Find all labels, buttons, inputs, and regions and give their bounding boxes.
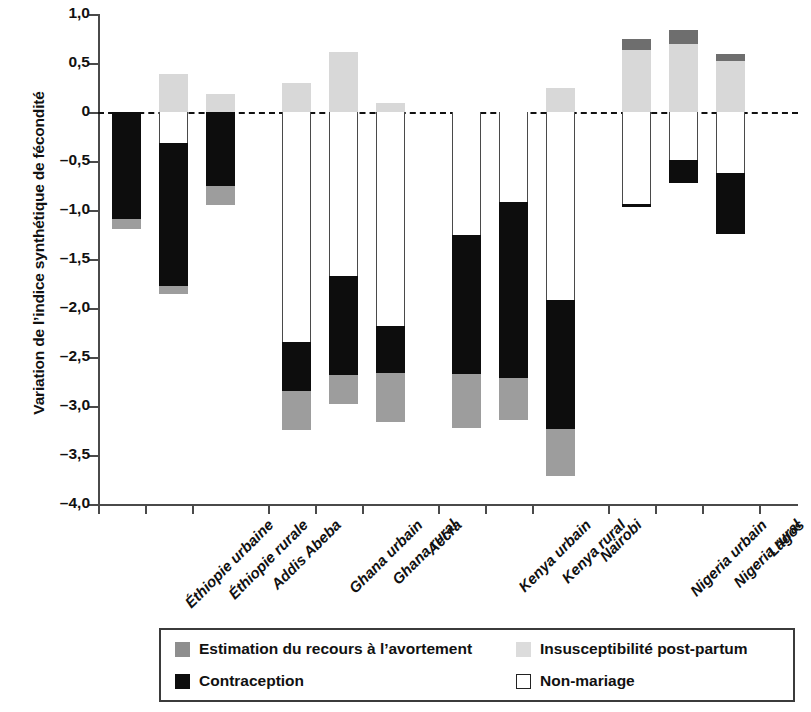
y-tick (89, 112, 98, 114)
segment-non-mariage (376, 112, 405, 326)
segment-abortion (669, 30, 698, 45)
segment-abortion (159, 286, 188, 294)
bar-addis-abeba[interactable] (206, 14, 235, 506)
y-tick (89, 161, 98, 163)
y-tick (89, 406, 98, 408)
segment-contraception (499, 202, 528, 377)
bar--thiopie-rurale[interactable] (159, 14, 188, 506)
y-tick (89, 14, 98, 16)
x-tick (759, 504, 761, 514)
x-tick (438, 504, 440, 514)
y-tick-label: –4,0 (24, 494, 90, 512)
x-tick (268, 504, 270, 514)
bar-ghana-rural[interactable] (329, 14, 358, 506)
y-tick-label: 1,0 (24, 4, 90, 22)
legend-label: Estimation du recours à l’avortement (199, 640, 472, 658)
x-tick (608, 504, 610, 514)
bar-kenya-urbain[interactable] (452, 14, 481, 506)
plot-area: 1,00,50–0,5–1,0–1,5–2,0–2,5–3,0–3,5–4,0 (98, 14, 798, 506)
x-tick (655, 504, 657, 514)
x-tick (192, 504, 194, 514)
legend-item-gray[interactable]: Estimation du recours à l’avortement (175, 640, 472, 658)
segment-abortion (622, 39, 651, 51)
legend-label: Contraception (199, 672, 304, 690)
segment-contraception (376, 326, 405, 373)
x-tick (532, 504, 534, 514)
y-tick (89, 504, 98, 506)
segment-contraception (206, 112, 235, 186)
bar-accra[interactable] (376, 14, 405, 506)
segment-postpartum (669, 44, 698, 112)
legend-item-black[interactable]: Contraception (175, 672, 304, 690)
bar-ghana-urbain[interactable] (282, 14, 311, 506)
chart-root: Variation de l’indice synthétique de féc… (0, 0, 811, 712)
bar-kenya-rural[interactable] (499, 14, 528, 506)
segment-contraception (716, 173, 745, 234)
segment-contraception (546, 300, 575, 428)
segment-postpartum (546, 88, 575, 113)
x-tick (362, 504, 364, 514)
segment-abortion (499, 378, 528, 420)
y-tick (89, 308, 98, 310)
bar-nairobi[interactable] (546, 14, 575, 506)
segment-contraception (452, 235, 481, 374)
y-tick (89, 259, 98, 261)
segment-non-mariage (546, 112, 575, 300)
y-tick-label: –2,0 (24, 298, 90, 316)
y-tick (89, 455, 98, 457)
y-tick-label: –1,0 (24, 200, 90, 218)
x-tick (315, 504, 317, 514)
segment-contraception (159, 143, 188, 286)
x-tick (98, 504, 100, 514)
y-axis-line (98, 14, 100, 506)
legend-swatch-gray-icon (175, 642, 190, 657)
segment-postpartum (282, 83, 311, 112)
y-tick (89, 63, 98, 65)
y-tick (89, 357, 98, 359)
segment-abortion (112, 219, 141, 229)
y-tick-label: –3,0 (24, 396, 90, 414)
legend-label: Insusceptibilité post-partum (540, 640, 748, 658)
segment-non-mariage (622, 112, 651, 204)
legend: Estimation du recours à l’avortementInsu… (159, 628, 795, 702)
segment-contraception (669, 160, 698, 183)
x-tick (145, 504, 147, 514)
segment-postpartum (376, 103, 405, 112)
segment-contraception (282, 342, 311, 391)
segment-non-mariage (329, 112, 358, 276)
segment-non-mariage (282, 112, 311, 342)
segment-contraception (622, 204, 651, 207)
segment-postpartum (716, 61, 745, 112)
segment-abortion (329, 375, 358, 404)
segment-abortion (282, 391, 311, 430)
legend-swatch-black-icon (175, 674, 190, 689)
bar-nigeria-rural[interactable] (669, 14, 698, 506)
y-tick-label: –1,5 (24, 249, 90, 267)
segment-postpartum (329, 52, 358, 112)
legend-item-light[interactable]: Insusceptibilité post-partum (516, 640, 748, 658)
legend-swatch-white-icon (516, 674, 531, 689)
segment-non-mariage (716, 112, 745, 173)
segment-abortion (206, 186, 235, 205)
segment-contraception (329, 276, 358, 375)
x-tick (485, 504, 487, 514)
segment-abortion (716, 54, 745, 61)
bar--thiopie-urbaine[interactable] (112, 14, 141, 506)
segment-non-mariage (452, 112, 481, 235)
legend-label: Non-mariage (540, 672, 635, 690)
y-tick-label: 0,5 (24, 53, 90, 71)
y-tick-label: 0 (24, 102, 90, 120)
y-tick (89, 210, 98, 212)
segment-abortion (452, 374, 481, 428)
segment-contraception (112, 112, 141, 219)
y-tick-label: –3,5 (24, 445, 90, 463)
bar-lagos[interactable] (716, 14, 745, 506)
segment-non-mariage (499, 112, 528, 202)
legend-item-white[interactable]: Non-mariage (516, 672, 635, 690)
x-tick (702, 504, 704, 514)
y-tick-label: –2,5 (24, 347, 90, 365)
segment-abortion (546, 429, 575, 476)
y-tick-label: –0,5 (24, 151, 90, 169)
bar-nigeria-urbain[interactable] (622, 14, 651, 506)
segment-non-mariage (669, 112, 698, 160)
